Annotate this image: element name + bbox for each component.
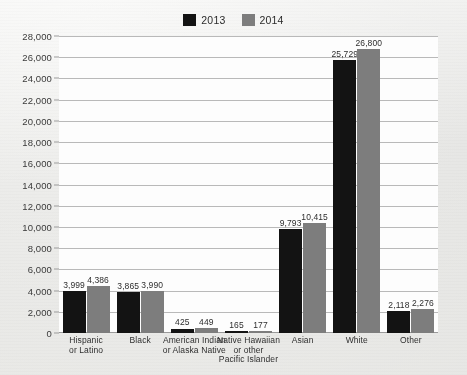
- bar-2014-3[interactable]: [249, 331, 272, 333]
- y-axis-tick-label: 28,000: [22, 31, 52, 42]
- bar-group: [225, 36, 272, 333]
- x-axis-category-label: Black: [130, 336, 151, 346]
- y-axis-tick-label: 20,000: [22, 115, 52, 126]
- y-axis-tick-mark: [54, 142, 59, 143]
- y-axis-tick-label: 12,000: [22, 200, 52, 211]
- y-axis-tick-mark: [54, 226, 59, 227]
- y-axis-tick-mark: [54, 78, 59, 79]
- bar-2013-4[interactable]: [279, 229, 302, 333]
- legend-label-2014: 2014: [260, 15, 284, 26]
- bar-group: [63, 36, 110, 333]
- y-axis-tick-mark: [54, 163, 59, 164]
- bar-group: [117, 36, 164, 333]
- x-axis: Hispanicor LatinoBlackAmerican Indianor …: [59, 336, 438, 375]
- y-axis-tick-mark: [54, 99, 59, 100]
- bar-2014-4[interactable]: [303, 223, 326, 333]
- y-axis-tick-label: 22,000: [22, 94, 52, 105]
- bar-group: [171, 36, 218, 333]
- y-axis-tick-mark: [54, 36, 59, 37]
- y-axis-tick-label: 0: [47, 328, 52, 339]
- y-axis-tick-mark: [54, 290, 59, 291]
- bar-2014-1[interactable]: [141, 291, 164, 333]
- y-axis-tick-mark: [54, 120, 59, 121]
- bar-2013-2[interactable]: [171, 329, 194, 334]
- y-axis-tick-mark: [54, 311, 59, 312]
- y-axis-tick-mark: [54, 333, 59, 334]
- bar-group: [387, 36, 434, 333]
- legend-swatch-2014: [242, 14, 255, 26]
- x-axis-category-label: Other: [400, 336, 422, 346]
- bar-group: [333, 36, 380, 333]
- bar-2014-0[interactable]: [87, 286, 110, 333]
- bar-group: [279, 36, 326, 333]
- legend-label-2013: 2013: [201, 15, 225, 26]
- y-axis-tick-label: 26,000: [22, 52, 52, 63]
- y-axis-tick-label: 2,000: [28, 306, 52, 317]
- y-axis-tick-mark: [54, 248, 59, 249]
- legend-swatch-2013: [183, 14, 196, 26]
- y-axis-tick-mark: [54, 269, 59, 270]
- y-axis-tick-label: 16,000: [22, 158, 52, 169]
- x-axis-category-label: White: [346, 336, 368, 346]
- bar-2014-5[interactable]: [357, 49, 380, 333]
- y-axis-tick-label: 10,000: [22, 221, 52, 232]
- y-axis-tick-label: 6,000: [28, 264, 52, 275]
- bar-2013-5[interactable]: [333, 60, 356, 333]
- y-axis-tick-label: 18,000: [22, 137, 52, 148]
- y-axis-tick-label: 24,000: [22, 73, 52, 84]
- bar-2013-1[interactable]: [117, 292, 140, 333]
- chart-legend: 2013 2014: [0, 14, 467, 26]
- bars-layer: 3,9994,3863,8653,9904254491651779,79310,…: [59, 36, 438, 333]
- y-axis-tick-mark: [54, 184, 59, 185]
- y-axis-tick-mark: [54, 205, 59, 206]
- y-axis-tick-label: 14,000: [22, 179, 52, 190]
- bar-2014-6[interactable]: [411, 309, 434, 333]
- y-axis-tick-label: 4,000: [28, 285, 52, 296]
- y-axis: 02,0004,0006,0008,00010,00012,00014,0001…: [0, 36, 59, 333]
- y-axis-tick-label: 8,000: [28, 243, 52, 254]
- legend-item-2014: 2014: [242, 14, 284, 26]
- bar-2013-0[interactable]: [63, 291, 86, 333]
- x-axis-category-label: Hispanicor Latino: [69, 336, 103, 355]
- y-axis-tick-mark: [54, 57, 59, 58]
- bar-2014-2[interactable]: [195, 328, 218, 333]
- legend-item-2013: 2013: [183, 14, 225, 26]
- bar-2013-3[interactable]: [225, 331, 248, 333]
- chart-page: 2013 2014 02,0004,0006,0008,00010,00012,…: [0, 0, 467, 375]
- x-axis-category-label: Native Hawaiianor otherPacific Islander: [217, 336, 280, 365]
- bar-2013-6[interactable]: [387, 311, 410, 333]
- x-axis-category-label: Asian: [292, 336, 314, 346]
